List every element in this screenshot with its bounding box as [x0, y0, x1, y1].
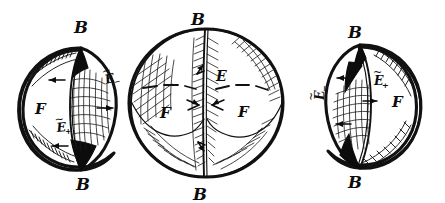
- label-E-subscript-2: +: [64, 125, 72, 136]
- label-B-bottom-middle: B: [192, 185, 207, 203]
- label-E-middle: E: [215, 68, 227, 84]
- label-B-top-left: B: [73, 18, 88, 37]
- sphere-middle-arrow-right-inward: [212, 99, 224, 110]
- sphere-left-arrow-upper: [49, 77, 65, 83]
- label-E-subscript-3: +: [382, 80, 389, 90]
- label-F-right: F: [391, 93, 404, 111]
- sphere-middle-meridian-echo: [206, 30, 208, 176]
- sphere-right-outline-echo: [360, 46, 420, 166]
- sphere-left-lens-hatch-vertical: [74, 69, 109, 150]
- label-F-middle-left: F: [159, 104, 172, 122]
- label-E-subscript-4: −: [319, 85, 329, 92]
- label-F-left: F: [34, 100, 47, 118]
- sphere-right: B B F ~ E + ~ E −: [305, 23, 421, 192]
- figure-canvas: B B F ~ E − ~ E +: [0, 0, 445, 203]
- sphere-middle-right-dash-3: [256, 86, 268, 90]
- label-E-tilde-plus-right: ~ E +: [373, 66, 389, 90]
- sphere-middle-left-dash-3: [185, 86, 196, 89]
- label-E-subscript-1: −: [113, 76, 122, 87]
- label-B-top-middle: B: [190, 10, 205, 29]
- label-F-middle-right: F: [237, 103, 250, 121]
- label-B-top-right: B: [347, 23, 362, 42]
- sphere-decomposition-diagram: B B F ~ E − ~ E +: [0, 0, 445, 203]
- sphere-middle-right-dash-1: [216, 86, 229, 89]
- sphere-left: B B F ~ E − ~ E +: [19, 18, 122, 194]
- label-B-bottom-right: B: [347, 173, 362, 192]
- sphere-middle-lower-right-hatch: [213, 118, 274, 169]
- label-E-tilde-minus-left: ~ E −: [100, 62, 121, 89]
- sphere-left-arrow-lower: [52, 143, 68, 149]
- label-E-tilde-minus-right: ~ E −: [305, 85, 329, 101]
- sphere-middle: B B E F F: [129, 10, 283, 203]
- label-B-bottom-left: B: [75, 175, 90, 194]
